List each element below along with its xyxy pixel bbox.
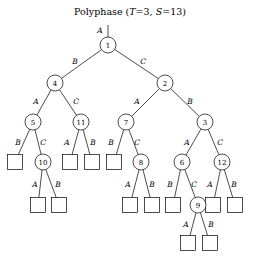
edge-label-n4-n11: C [73, 97, 79, 106]
tree-node-label-6: 6 [180, 159, 185, 167]
edge-label-n10-L6: B [54, 180, 61, 189]
edge-label-n12-L10: A [206, 180, 213, 189]
leaf-node-L2 [63, 155, 78, 170]
leaf-node-L3 [85, 155, 100, 170]
tree-edge-n1-n4 [62, 50, 102, 79]
leaf-node-L5 [31, 198, 46, 213]
leaf-node-L6 [52, 198, 67, 213]
edge-label-n3-n12: C [217, 138, 223, 147]
edge-label-n1-n4: B [71, 57, 78, 66]
tree-node-label-5: 5 [31, 119, 35, 127]
tree-diagram-canvas: A 142511731086129 BCACABBCABBCACABABBCAB… [0, 0, 260, 258]
tree-node-label-3: 3 [203, 119, 207, 127]
edge-label-n11-L2: A [63, 138, 70, 147]
edge-label-n12-L11: B [230, 180, 237, 189]
tree-edge-n11-L2 [72, 130, 79, 155]
leaf-node-L9 [166, 198, 181, 213]
edge-label-n1-n2: C [140, 57, 146, 66]
edge-label-n7-n8: C [134, 138, 140, 147]
tree-edge-n2-n3 [171, 89, 200, 117]
tree-node-label-10: 10 [39, 159, 48, 167]
edge-label-n9-L12: A [182, 220, 189, 229]
tree-edge-n7-L4 [116, 130, 123, 155]
edge-label-n8-L8: B [148, 180, 155, 189]
leaf-node-L10 [206, 198, 221, 213]
leaf-node-L8 [145, 198, 160, 213]
edge-label-n3-n6: A [183, 138, 190, 147]
tree-edge-n1-n2 [115, 49, 159, 78]
tree-edge-n12-L10 [215, 170, 221, 198]
leaf-node-L12 [181, 236, 196, 251]
tree-node-label-2: 2 [163, 80, 167, 88]
leaf-node-L1 [8, 155, 23, 170]
tree-edge-n10-L5 [39, 170, 42, 198]
edge-label-n6-n9: C [191, 180, 197, 189]
tree-edge-n8-L7 [132, 170, 139, 198]
root-stub-layer: A [96, 25, 108, 37]
edge-label-n11-L3: B [89, 138, 96, 147]
tree-edge-n9-L12 [190, 213, 196, 236]
edge-label-n2-n7: A [133, 97, 140, 106]
tree-node-label-8: 8 [139, 159, 143, 167]
leaf-node-L4 [107, 155, 122, 170]
tree-edge-n4-n5 [37, 90, 51, 115]
tree-node-label-9: 9 [196, 202, 200, 210]
tree-node-label-1: 1 [106, 42, 110, 50]
leaf-node-L7 [123, 198, 138, 213]
tree-edge-n6-L9 [175, 170, 181, 198]
edge-label-n9-L13: B [207, 220, 214, 229]
edge-label-n2-n3: B [186, 97, 193, 106]
tree-edge-n11-L3 [83, 130, 90, 155]
tree-edge-n9-L13 [200, 213, 207, 236]
edge-label-n7-L4: B [107, 138, 114, 147]
edge-label-n6-L9: B [166, 180, 173, 189]
edge-label-n5-n10: C [40, 138, 46, 147]
edge-label-n8-L7: A [124, 180, 131, 189]
leaf-node-L13 [203, 236, 218, 251]
tree-node-label-12: 12 [218, 159, 227, 167]
edge-label-n4-n5: A [32, 97, 39, 106]
edge-label-n5-L1: B [14, 138, 21, 147]
polyphase-tree-figure: Polyphase (T=3, S=13) A 142511731086129 … [0, 0, 260, 258]
tree-node-label-4: 4 [53, 80, 58, 88]
leaf-node-L11 [228, 198, 243, 213]
tree-node-label-7: 7 [124, 119, 128, 127]
tree-node-label-11: 11 [77, 119, 86, 127]
edge-label-n10-L5: A [31, 180, 38, 189]
root-stub-label: A [96, 26, 103, 35]
